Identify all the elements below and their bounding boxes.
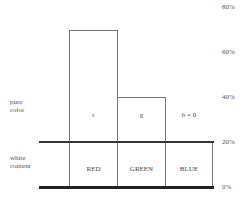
pure-color-label: pure color — [10, 98, 24, 114]
white-content-line — [39, 141, 214, 143]
baseline — [39, 186, 214, 189]
green-bar — [117, 97, 166, 143]
red-bottom-label: RED — [69, 165, 118, 173]
white-content-label: white content — [10, 154, 31, 170]
white-content-line2: content — [10, 162, 31, 170]
tick-60: 60% — [222, 48, 252, 56]
green-top-label: g — [117, 111, 166, 119]
white-content-line1: white — [10, 154, 31, 162]
blue-bottom-label: BLUE — [165, 165, 213, 173]
pure-color-line1: pure — [10, 98, 24, 106]
red-bar — [69, 30, 118, 143]
green-bottom-label: GREEN — [117, 165, 166, 173]
tick-80: 80% — [222, 3, 252, 11]
pure-color-line2: color — [10, 106, 24, 114]
tick-20: 20% — [222, 138, 252, 146]
red-top-label: r — [69, 111, 118, 119]
blue-top-label: b = 0 — [165, 111, 213, 119]
tick-40: 40% — [222, 93, 252, 101]
tick-0: 0% — [222, 183, 252, 191]
